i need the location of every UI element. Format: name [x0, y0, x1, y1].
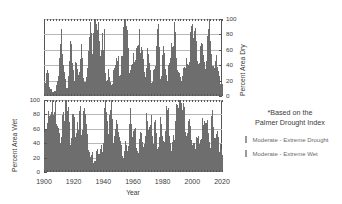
axis-tick: [213, 94, 214, 96]
axis-tick: [74, 170, 75, 172]
axis-tick: [142, 19, 143, 21]
axis-tick: [201, 19, 202, 21]
y-tick-label: 60: [18, 126, 40, 132]
axis-tick: [44, 19, 45, 21]
axis-tick: [133, 94, 134, 96]
axis-tick: [118, 170, 119, 172]
axis-tick: [71, 100, 72, 102]
axis-tick: [103, 19, 104, 21]
axis-tick: [44, 94, 45, 96]
axis-tick: [47, 94, 48, 96]
axis-tick: [189, 19, 190, 21]
axis-tick: [139, 100, 140, 102]
axis-tick: [71, 94, 72, 96]
axis-tick: [157, 19, 158, 21]
axis-tick: [133, 100, 134, 102]
axis-tick: [86, 170, 87, 172]
axis-tick: [53, 19, 54, 21]
axis-tick: [62, 100, 63, 102]
axis-tick: [115, 170, 116, 172]
axis-tick: [219, 100, 220, 102]
axis-tick: [198, 170, 199, 172]
axis-tick: [183, 94, 184, 96]
axis-tick: [112, 94, 113, 96]
axis-tick: [109, 94, 110, 96]
axis-tick: [154, 170, 155, 172]
x-tick-label: 1920: [59, 178, 89, 185]
axis-tick: [80, 170, 81, 172]
y-tick-label: 0: [226, 93, 229, 99]
y-tick-label: 60: [226, 47, 233, 53]
axis-tick: [142, 94, 143, 96]
axis-tick: [56, 100, 57, 102]
legend-swatch-icon: [245, 150, 247, 157]
axis-tick: [77, 94, 78, 96]
axis-tick: [139, 19, 140, 21]
y-tick-label: 20: [18, 155, 40, 161]
axis-tick: [44, 114, 47, 115]
axis-tick: [74, 19, 75, 21]
legend-row: Moderate - Extreme Wet: [238, 150, 342, 157]
x-tick-label: 1980: [148, 178, 178, 185]
axis-tick: [180, 170, 181, 172]
axis-tick: [222, 100, 223, 102]
axis-tick: [62, 94, 63, 96]
axis-tick: [80, 19, 81, 21]
axis-tick: [91, 94, 92, 96]
axis-tick: [83, 100, 84, 102]
legend-row: Moderate - Extreme Drought: [238, 136, 342, 143]
axis-tick: [157, 100, 158, 102]
axis-tick: [124, 100, 125, 102]
axis-tick: [106, 170, 107, 172]
axis-tick: [94, 170, 95, 172]
axis-tick: [172, 170, 173, 172]
axis-tick: [175, 19, 176, 21]
axis-tick: [115, 19, 116, 21]
axis-tick: [47, 170, 48, 172]
axis-tick: [178, 100, 179, 102]
axis-tick: [65, 19, 66, 21]
axis-tick: [204, 100, 205, 102]
axis-tick: [83, 170, 84, 172]
axis-tick: [219, 19, 222, 20]
axis-tick: [207, 170, 208, 172]
axis-tick: [130, 100, 131, 102]
axis-tick: [59, 100, 60, 102]
y-tick-label: 80: [18, 111, 40, 117]
axis-tick: [59, 170, 60, 172]
axis-tick: [94, 94, 95, 96]
legend: Moderate - Extreme DroughtModerate - Ext…: [238, 136, 342, 157]
y-axis-title-wet: Percent Area Wet: [12, 119, 19, 172]
axis-tick: [106, 100, 107, 102]
axis-tick: [189, 100, 190, 102]
axis-tick: [65, 100, 66, 102]
axis-tick: [175, 94, 176, 96]
axis-tick: [151, 100, 152, 102]
axis-tick: [68, 100, 69, 102]
axis-tick: [136, 19, 137, 21]
axis-tick: [139, 170, 140, 172]
axis-tick: [145, 170, 146, 172]
axis-tick: [183, 100, 184, 102]
axis-tick: [195, 94, 196, 96]
axis-tick: [112, 170, 113, 172]
axis-tick: [142, 100, 143, 102]
axis-tick: [62, 19, 63, 21]
axis-tick: [160, 94, 161, 96]
x-tick-label: 2020: [207, 178, 237, 185]
axis-tick: [109, 170, 110, 172]
axis-tick: [186, 100, 187, 102]
axis-tick: [80, 100, 81, 102]
axis-tick: [124, 94, 125, 96]
axis-tick: [216, 100, 217, 102]
axis-tick: [148, 170, 149, 172]
axis-tick: [83, 19, 84, 21]
axis-tick: [186, 19, 187, 21]
y-tick-label: 20: [226, 78, 233, 84]
axis-tick: [65, 170, 66, 172]
axis-tick: [133, 19, 134, 21]
axis-tick: [115, 94, 116, 96]
axis-tick: [160, 100, 161, 102]
axis-tick: [166, 19, 167, 21]
axis-tick: [62, 170, 63, 172]
